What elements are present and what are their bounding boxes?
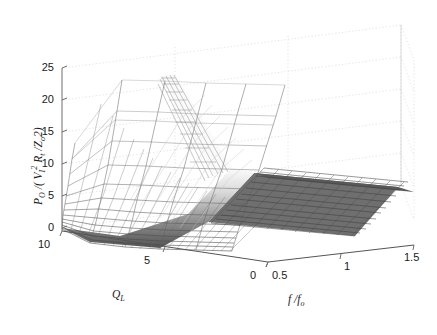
z-label-R: R	[32, 156, 44, 163]
z-label-Z-sub: o	[38, 137, 47, 141]
x-tick-5: 5	[144, 254, 150, 266]
z-tick-0: 0	[32, 221, 54, 233]
z-label-two: 2)	[32, 127, 44, 137]
z-label-P: P	[32, 198, 44, 205]
x-tick-10: 10	[38, 238, 50, 250]
z-label-P-sub: O	[38, 192, 47, 198]
y-tick-1p5: 1.5	[404, 251, 419, 263]
y-axis-line	[268, 245, 414, 262]
y-tick-0p5: 0.5	[272, 269, 287, 281]
z-tick-20: 20	[32, 93, 54, 105]
z-label-V: V	[32, 172, 44, 179]
y-axis-label: f /fo	[288, 293, 304, 308]
x-label-sub: L	[120, 294, 124, 303]
y-axis-ticks	[266, 245, 414, 267]
surface-plot-canvas	[0, 0, 437, 335]
z-label-V-sup: 2	[30, 166, 39, 170]
y-label-den-sub: o	[300, 299, 304, 308]
z-label-slash1: /(	[32, 179, 44, 192]
z-axis-label: PO /( VI2 Rt /Zo2)	[30, 127, 47, 205]
x-axis-label: QL	[112, 288, 125, 303]
y-tick-1: 1	[344, 260, 350, 272]
surface-peak-ridge	[160, 74, 232, 176]
z-label-V-sub: I	[38, 170, 47, 173]
figure-3d-surface-plot: 25 20 15 10 5 0 10 5 0 0.5 1 1.5 PO /( V…	[0, 0, 437, 335]
x-tick-0: 0	[250, 269, 256, 281]
z-label-space	[32, 163, 44, 166]
z-tick-25: 25	[32, 61, 54, 73]
z-label-Z: Z	[32, 141, 44, 147]
z-label-slash2: /	[32, 147, 44, 153]
